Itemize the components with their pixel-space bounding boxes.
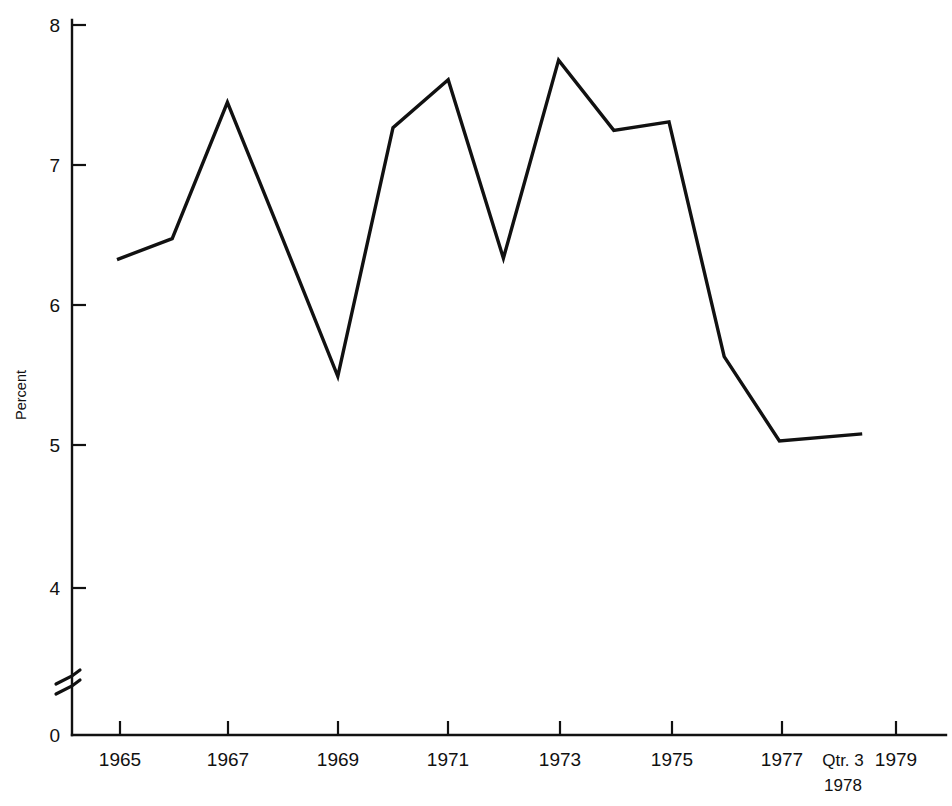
x-axis-ticks [120, 721, 896, 735]
x-tick-label-1969: 1969 [317, 749, 359, 770]
data-series-line [117, 60, 862, 441]
x-tick-label-1973: 1973 [539, 749, 581, 770]
x-tick-label-1971: 1971 [427, 749, 469, 770]
y-axis-ticks [72, 25, 86, 588]
x-axis-quarter-annotation: Qtr. 3 1978 [822, 751, 864, 795]
x-tick-label-1979: 1979 [875, 749, 917, 770]
x-annotation-1978: 1978 [824, 776, 862, 795]
y-tick-label-5: 5 [49, 435, 60, 456]
x-tick-label-1967: 1967 [207, 749, 249, 770]
x-tick-label-1977: 1977 [761, 749, 803, 770]
y-axis-title: Percent [13, 370, 29, 420]
y-tick-label-4: 4 [49, 578, 60, 599]
line-chart-plot: 8 7 6 5 4 0 Percent 1965 1967 1969 1971 … [0, 0, 952, 806]
x-tick-label-1975: 1975 [651, 749, 693, 770]
y-tick-label-6: 6 [49, 295, 60, 316]
y-axis-tick-labels: 8 7 6 5 4 0 [49, 15, 60, 746]
y-tick-label-7: 7 [49, 155, 60, 176]
chart-container: 8 7 6 5 4 0 Percent 1965 1967 1969 1971 … [0, 0, 952, 806]
x-annotation-qtr3: Qtr. 3 [822, 751, 864, 770]
x-axis-tick-labels: 1965 1967 1969 1971 1973 1975 1977 1979 [99, 749, 917, 770]
y-tick-label-0: 0 [49, 725, 60, 746]
y-tick-label-8: 8 [49, 15, 60, 36]
x-tick-label-1965: 1965 [99, 749, 141, 770]
axis-break-icon [56, 670, 80, 694]
